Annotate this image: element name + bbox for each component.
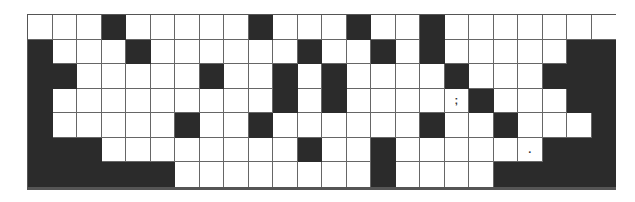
grid-cell[interactable] [102, 40, 127, 65]
grid-cell[interactable] [151, 40, 176, 65]
grid-cell[interactable] [347, 138, 372, 163]
grid-cell[interactable] [298, 113, 323, 138]
grid-cell[interactable] [469, 162, 494, 187]
grid-cell[interactable] [175, 40, 200, 65]
grid-cell[interactable] [126, 138, 151, 163]
grid-cell[interactable] [77, 113, 102, 138]
grid-cell[interactable] [102, 113, 127, 138]
grid-cell[interactable] [396, 113, 421, 138]
grid-cell[interactable] [543, 15, 568, 40]
grid-cell[interactable] [224, 113, 249, 138]
grid-cell[interactable] [151, 113, 176, 138]
grid-cell[interactable] [273, 15, 298, 40]
grid-cell[interactable] [273, 138, 298, 163]
grid-cell[interactable] [151, 138, 176, 163]
grid-cell[interactable] [126, 64, 151, 89]
grid-cell[interactable] [273, 40, 298, 65]
grid-cell[interactable] [126, 15, 151, 40]
grid-cell[interactable] [102, 64, 127, 89]
grid-cell[interactable] [200, 40, 225, 65]
grid-cell[interactable] [224, 15, 249, 40]
grid-cell[interactable] [371, 113, 396, 138]
grid-cell[interactable] [518, 89, 543, 114]
grid-cell[interactable] [200, 162, 225, 187]
grid-cell[interactable] [322, 40, 347, 65]
grid-cell[interactable] [371, 64, 396, 89]
grid-cell[interactable] [445, 15, 470, 40]
grid-cell[interactable] [494, 15, 519, 40]
grid-cell[interactable] [273, 113, 298, 138]
grid-cell[interactable] [567, 15, 592, 40]
grid-cell[interactable] [543, 40, 568, 65]
grid-cell[interactable] [53, 89, 78, 114]
grid-cell[interactable] [469, 138, 494, 163]
grid-cell[interactable] [396, 40, 421, 65]
grid-cell[interactable] [200, 113, 225, 138]
grid-cell[interactable] [543, 89, 568, 114]
grid-cell[interactable] [28, 15, 53, 40]
grid-cell[interactable] [273, 162, 298, 187]
grid-cell[interactable] [175, 64, 200, 89]
grid-cell[interactable] [102, 89, 127, 114]
grid-cell[interactable] [420, 138, 445, 163]
grid-cell[interactable] [200, 15, 225, 40]
grid-cell[interactable] [396, 64, 421, 89]
grid-cell[interactable] [445, 138, 470, 163]
grid-cell[interactable] [298, 89, 323, 114]
grid-cell[interactable] [420, 162, 445, 187]
grid-cell[interactable] [53, 15, 78, 40]
grid-cell[interactable] [494, 138, 519, 163]
grid-cell[interactable] [77, 89, 102, 114]
grid-cell[interactable] [371, 15, 396, 40]
grid-cell[interactable] [396, 162, 421, 187]
grid-cell[interactable] [126, 89, 151, 114]
grid-cell[interactable] [469, 113, 494, 138]
grid-cell[interactable] [224, 64, 249, 89]
grid-cell[interactable] [224, 40, 249, 65]
grid-cell[interactable] [151, 89, 176, 114]
grid-cell[interactable] [494, 40, 519, 65]
grid-cell[interactable] [396, 15, 421, 40]
grid-cell[interactable] [592, 15, 617, 40]
grid-cell[interactable] [347, 40, 372, 65]
grid-cell[interactable]: ; [445, 89, 470, 114]
grid-cell[interactable] [396, 138, 421, 163]
grid-cell[interactable] [298, 64, 323, 89]
grid-cell[interactable] [224, 89, 249, 114]
grid-cell[interactable] [322, 138, 347, 163]
grid-cell[interactable] [175, 138, 200, 163]
grid-cell[interactable] [224, 162, 249, 187]
grid-cell[interactable] [298, 162, 323, 187]
grid-cell[interactable] [322, 113, 347, 138]
grid-cell[interactable] [175, 162, 200, 187]
grid-cell[interactable] [102, 138, 127, 163]
grid-cell[interactable] [347, 89, 372, 114]
grid-cell[interactable] [175, 15, 200, 40]
grid-cell[interactable] [420, 64, 445, 89]
grid-cell[interactable] [298, 15, 323, 40]
grid-cell[interactable] [126, 113, 151, 138]
grid-cell[interactable] [371, 89, 396, 114]
grid-cell[interactable] [53, 113, 78, 138]
grid-cell[interactable] [77, 15, 102, 40]
grid-cell[interactable] [396, 89, 421, 114]
grid-cell[interactable] [518, 40, 543, 65]
grid-cell[interactable] [175, 89, 200, 114]
grid-cell[interactable] [322, 162, 347, 187]
grid-cell[interactable] [347, 113, 372, 138]
grid-cell[interactable] [518, 15, 543, 40]
grid-cell[interactable] [249, 162, 274, 187]
grid-cell[interactable] [200, 138, 225, 163]
grid-cell[interactable] [347, 162, 372, 187]
grid-cell[interactable] [445, 162, 470, 187]
grid-cell[interactable] [224, 138, 249, 163]
grid-cell[interactable] [151, 15, 176, 40]
grid-cell[interactable] [518, 113, 543, 138]
grid-cell[interactable] [469, 40, 494, 65]
grid-cell[interactable] [249, 89, 274, 114]
grid-cell[interactable] [543, 113, 568, 138]
grid-cell[interactable] [469, 15, 494, 40]
grid-cell[interactable] [494, 64, 519, 89]
grid-cell[interactable]: . [518, 138, 543, 163]
grid-cell[interactable] [445, 113, 470, 138]
